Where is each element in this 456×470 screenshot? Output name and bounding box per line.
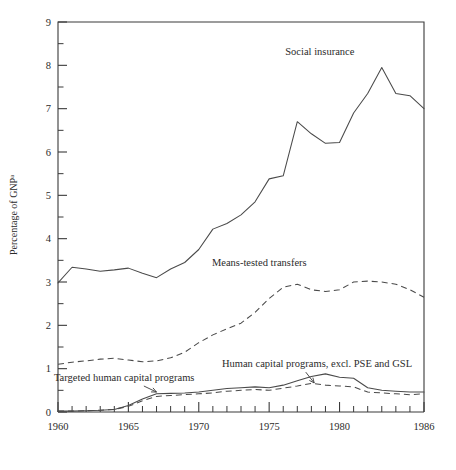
y-tick-label: 4 [46,233,52,244]
series-label-3: Targeted human capital programs [54,372,194,383]
y-tick-label: 1 [46,363,51,374]
x-tick-label: 1960 [48,421,69,432]
y-tick-label: 3 [46,277,51,288]
y-tick-label: 0 [46,407,51,418]
series-label-2: Human capital programs, excl. PSE and GS… [222,358,412,369]
leader-targeted-human-capital [144,386,157,392]
y-tick-label: 5 [46,190,51,201]
y-axis-ticks [58,22,67,412]
chart-figure: 0123456789 196019651970197519801986 Soci… [0,0,456,470]
series-line-0 [58,68,424,283]
series-annotations: Social insuranceMeans-tested transfersHu… [54,46,412,383]
plot-frame [58,22,424,412]
x-axis-ticks [58,402,424,412]
line-chart: 0123456789 196019651970197519801986 Soci… [0,0,456,470]
x-tick-label: 1986 [414,421,435,432]
y-tick-label: 9 [46,17,51,28]
y-tick-label: 2 [46,320,51,331]
y-tick-label: 8 [46,60,51,71]
series-line-1 [58,281,424,364]
series-label-1: Means-tested transfers [212,257,307,268]
y-axis-tick-labels: 0123456789 [46,17,52,418]
y-tick-label: 6 [46,147,51,158]
series-label-0: Social insurance [285,46,354,57]
x-axis-tick-labels: 196019651970197519801986 [48,421,435,432]
y-axis-title: Percentage of GNPa [8,175,19,255]
y-axis-title-group: Percentage of GNPa [8,175,19,255]
x-tick-label: 1980 [329,421,350,432]
y-tick-label: 7 [46,103,51,114]
x-tick-label: 1970 [188,421,209,432]
x-tick-label: 1975 [259,421,280,432]
axis-border [58,22,424,412]
y-axis-title-footnote: a [8,175,15,178]
x-tick-label: 1965 [118,421,139,432]
